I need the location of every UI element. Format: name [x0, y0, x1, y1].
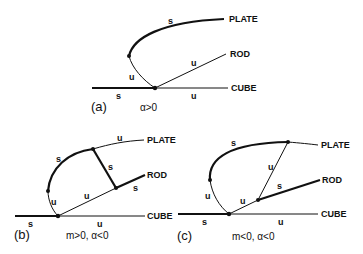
secondary-bifurcation-point — [114, 186, 118, 190]
cube-label: CUBE — [231, 83, 257, 93]
plate-label: PLATE — [229, 14, 258, 24]
stability-label: u — [278, 217, 284, 227]
stability-label: u — [129, 72, 135, 82]
cube-label: CUBE — [147, 211, 173, 221]
plate-label: PLATE — [147, 135, 176, 145]
plate-branch-stable — [129, 19, 224, 56]
panel-condition: m<0, α<0 — [232, 231, 275, 242]
fold-point — [127, 54, 131, 58]
panel-label: (c) — [177, 228, 192, 243]
stability-label: u — [84, 191, 90, 201]
stability-label: u — [240, 196, 246, 206]
bifurcation-point — [153, 86, 157, 90]
panel-condition: m>0, α<0 — [66, 230, 109, 241]
stability-label: s — [133, 183, 138, 193]
stability-label: s — [277, 181, 282, 191]
rod-label: ROD — [230, 49, 251, 59]
stability-label: s — [116, 91, 121, 101]
panel-a: PLATE ROD CUBE s u u s u (a) α>0 — [91, 14, 258, 114]
stability-label: u — [51, 197, 57, 207]
plate-branch-unstable — [210, 180, 229, 214]
panel-condition: α>0 — [140, 102, 158, 113]
stability-label: s — [56, 154, 61, 164]
secondary-bifurcation-point — [256, 198, 260, 202]
panel-b: PLATE ROD CUBE u s u s u s s u (b) m>0, … — [14, 133, 176, 242]
stability-label: s — [231, 138, 236, 148]
panel-label: (b) — [14, 227, 30, 242]
stability-label: u — [205, 191, 211, 201]
secondary-bifurcation-point — [286, 140, 290, 144]
rod-branch-stable — [116, 175, 145, 188]
stability-label: u — [97, 219, 103, 229]
panel-label: (a) — [91, 99, 107, 114]
stability-label: u — [191, 58, 197, 68]
plate-label: PLATE — [321, 140, 350, 150]
stability-label: u — [117, 133, 123, 143]
cube-label: CUBE — [321, 209, 347, 219]
secondary-bifurcation-point — [91, 147, 95, 151]
plate-branch-stable — [48, 149, 93, 191]
plate-branch-upper — [288, 142, 318, 145]
panel-c: PLATE ROD CUBE s u u u s s u (c) m<0, α<… — [177, 138, 350, 243]
bifurcation-point — [56, 214, 60, 218]
bifurcation-diagram-figure: PLATE ROD CUBE s u u s u (a) α>0 PLATE R… — [0, 0, 363, 254]
stability-label: u — [191, 91, 197, 101]
fold-point — [208, 178, 212, 182]
plate-branch-stable — [210, 142, 288, 180]
stability-label: u — [268, 162, 274, 172]
stability-label: s — [202, 217, 207, 227]
stability-label: s — [168, 16, 173, 26]
rod-label: ROD — [322, 175, 343, 185]
bifurcation-point — [227, 212, 231, 216]
fold-point — [46, 189, 50, 193]
rod-label: ROD — [147, 170, 168, 180]
stability-label: s — [108, 162, 113, 172]
